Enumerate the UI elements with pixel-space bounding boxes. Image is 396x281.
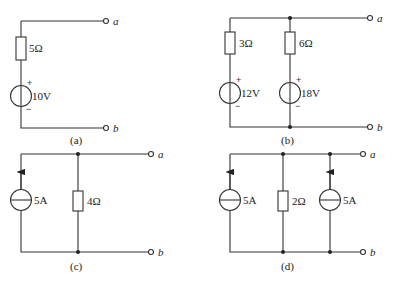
plus-sign: + — [296, 75, 301, 85]
circuit-b: 3Ω 6Ω + − + − 12V 18V a b (b) — [220, 12, 384, 147]
node-dot — [76, 250, 80, 254]
isource-label: 5A — [34, 194, 48, 206]
terminal-a-label: a — [370, 148, 376, 160]
v1-label: 12V — [241, 87, 260, 99]
terminal-b[interactable] — [368, 125, 373, 130]
node-dot — [328, 250, 332, 254]
source-label: 10V — [32, 90, 51, 102]
v2-label: 18V — [301, 87, 320, 99]
terminal-a-label: a — [158, 148, 164, 160]
r2-label: 6Ω — [299, 37, 313, 49]
resistor-4ohm — [73, 191, 83, 211]
terminal-a[interactable] — [368, 16, 373, 21]
caption-a: (a) — [70, 134, 83, 147]
node-dot — [328, 152, 332, 156]
terminal-a-label: a — [113, 15, 119, 27]
caption-b: (b) — [281, 134, 294, 147]
plus-sign: + — [236, 75, 241, 85]
i2-label: 5A — [343, 194, 357, 206]
r1-label: 3Ω — [239, 37, 253, 49]
i1-label: 5A — [243, 194, 257, 206]
minus-sign: − — [295, 101, 300, 111]
circuit-a: 5Ω + − 10V a b (a) — [11, 15, 120, 147]
resistor-5ohm — [16, 37, 26, 60]
node-dot — [76, 152, 80, 156]
circuit-figure: 5Ω + − 10V a b (a) 3Ω 6Ω + − + − 12V 18V… — [0, 0, 396, 281]
circuit-c: 5A 4Ω a b (c) — [11, 148, 165, 273]
resistor-label: 5Ω — [29, 42, 43, 54]
terminal-b[interactable] — [149, 250, 154, 255]
resistor-label: 4Ω — [87, 195, 101, 207]
plus-sign: + — [27, 78, 32, 88]
minus-sign: − — [26, 104, 31, 114]
terminal-b-label: b — [158, 246, 164, 258]
terminal-a[interactable] — [149, 152, 154, 157]
resistor-6ohm — [285, 32, 295, 54]
node-dot — [288, 125, 292, 129]
caption-d: (d) — [281, 260, 294, 273]
terminal-a[interactable] — [361, 152, 366, 157]
terminal-a[interactable] — [104, 19, 109, 24]
caption-c: (c) — [70, 260, 83, 273]
terminal-b-label: b — [113, 122, 119, 134]
terminal-b[interactable] — [104, 126, 109, 131]
wire-left — [21, 21, 103, 128]
resistor-label: 2Ω — [292, 195, 306, 207]
resistor-3ohm — [225, 32, 235, 54]
terminal-b[interactable] — [361, 250, 366, 255]
node-dot — [281, 250, 285, 254]
node-dot — [281, 152, 285, 156]
node-dot — [288, 16, 292, 20]
terminal-b-label: b — [377, 121, 383, 133]
terminal-b-label: b — [370, 246, 376, 258]
circuit-d: 5A 2Ω 5A a b (d) — [220, 148, 377, 273]
resistor-2ohm — [278, 191, 288, 211]
minus-sign: − — [235, 101, 240, 111]
terminal-a-label: a — [377, 12, 383, 24]
